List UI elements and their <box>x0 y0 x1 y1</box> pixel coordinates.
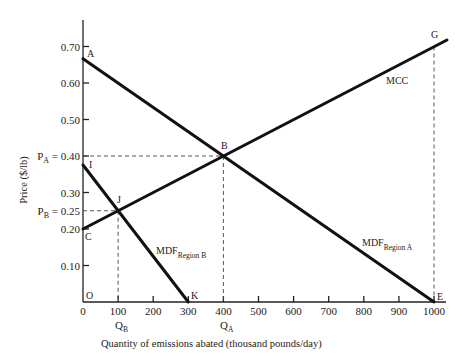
point-k-label: K <box>191 290 199 301</box>
x-tick-label: 300 <box>180 305 197 317</box>
x-tick-label: 800 <box>356 305 373 317</box>
mdf-region-a-label: MDFRegion A <box>362 237 413 252</box>
mdf-region-b-curve <box>83 165 188 302</box>
x-tick-label: 600 <box>285 305 302 317</box>
x-tick-label: 0 <box>80 305 86 317</box>
x-axis-title: Quantity of emissions abated (thousand p… <box>101 338 322 350</box>
point-j-label: J <box>117 194 121 205</box>
x-tick-label: 1000 <box>423 305 446 317</box>
x-tick-label: 400 <box>215 305 232 317</box>
pa-label: PA = 0.40 <box>37 150 80 165</box>
x-tick-label: 900 <box>391 305 408 317</box>
x-tick-label: 200 <box>145 305 162 317</box>
point-b-label: B <box>221 140 228 151</box>
point-a-label: A <box>87 48 95 59</box>
x-ticks: 0 100 200 300 400 500 600 700 800 900 10… <box>80 296 445 317</box>
point-g-label: G <box>431 29 438 40</box>
qa-label: QA <box>220 319 234 334</box>
y-tick-label: 0.70 <box>61 41 81 53</box>
y-axis-title: Price ($/lb) <box>18 156 30 204</box>
y-tick-label: 0.50 <box>61 114 81 126</box>
point-o-label: O <box>86 290 93 301</box>
mdf-region-b-label: MDFRegion B <box>156 245 206 260</box>
mcc-curve <box>83 40 447 229</box>
x-tick-label: 100 <box>110 305 127 317</box>
y-tick-label: 0.10 <box>61 260 81 272</box>
mcc-label: MCC <box>386 75 409 86</box>
point-e-label: E <box>437 291 443 302</box>
y-tick-label: 0.20 <box>61 223 81 235</box>
guide-lines <box>83 47 434 303</box>
y-tick-label: 0.60 <box>61 77 81 89</box>
x-tick-label: 500 <box>250 305 267 317</box>
qb-label: QB <box>115 319 128 334</box>
point-c-label: C <box>85 231 92 242</box>
pb-label: PB = 0.25 <box>38 205 81 220</box>
abatement-chart: 0.10 0.20 0.30 0.50 0.60 0.70 0 100 200 … <box>0 0 466 356</box>
y-tick-label: 0.30 <box>61 187 81 199</box>
point-i-label: I <box>89 159 92 170</box>
mdf-region-a-curve <box>83 59 434 302</box>
x-tick-label: 700 <box>320 305 337 317</box>
